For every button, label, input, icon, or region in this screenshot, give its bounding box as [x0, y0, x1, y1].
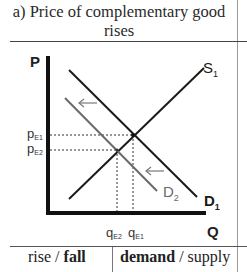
option-supply: supply	[188, 248, 231, 265]
separator: /	[51, 248, 63, 265]
supply-demand-diagram: P Q S1 D1 D2 pE1 pE2 qE2 qE1	[0, 0, 247, 272]
y-axis-label: P	[30, 53, 40, 70]
table-divider-bottom	[10, 246, 247, 247]
equilibrium-point-e1	[131, 133, 135, 137]
label-pe1: pE1	[27, 126, 43, 141]
label-pe2: pE2	[27, 141, 43, 156]
equilibrium-point-e2	[115, 148, 118, 151]
separator: /	[175, 248, 187, 265]
shift-arrow-left-lower	[146, 167, 164, 175]
shift-arrow-left-upper	[79, 99, 97, 107]
supply-curve-s1	[69, 68, 204, 199]
label-s1: S1	[203, 59, 218, 79]
option-rise: rise	[28, 248, 51, 265]
option-fall-selected: fall	[64, 248, 86, 265]
label-qe2: qE2	[106, 225, 122, 240]
answer-direction: rise / fall	[28, 248, 86, 266]
label-d2: D2	[163, 183, 179, 203]
x-axis-label: Q	[207, 223, 219, 240]
table-divider-middle	[112, 247, 113, 272]
answer-curve: demand / supply	[120, 248, 230, 266]
label-d1: D1	[204, 192, 220, 212]
option-demand-selected: demand	[120, 248, 175, 265]
label-qe1: qE1	[128, 225, 144, 240]
